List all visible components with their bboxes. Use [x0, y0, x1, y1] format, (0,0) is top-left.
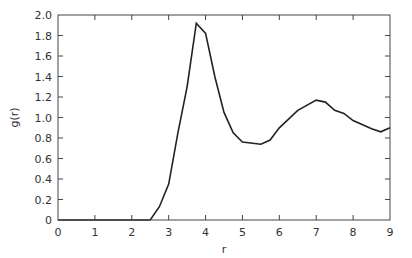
y-tick-label: 0	[45, 214, 52, 227]
y-tick-label: 0.2	[35, 194, 53, 207]
y-tick-label: 1.4	[35, 71, 53, 84]
tick-labels: 012345678900.20.40.60.81.01.21.41.61.82.…	[35, 9, 394, 239]
y-tick-label: 0.8	[35, 132, 53, 145]
x-axis-label: r	[222, 243, 227, 256]
x-tick-label: 8	[350, 226, 357, 239]
x-tick-label: 0	[55, 226, 62, 239]
x-tick-label: 5	[239, 226, 246, 239]
line-chart: 012345678900.20.40.60.81.01.21.41.61.82.…	[0, 0, 412, 258]
y-tick-label: 1.6	[35, 50, 53, 63]
x-tick-label: 4	[202, 226, 209, 239]
axis-ticks	[58, 15, 390, 220]
y-tick-label: 0.6	[35, 153, 53, 166]
y-tick-label: 1.8	[35, 30, 53, 43]
y-tick-label: 1.0	[35, 112, 53, 125]
x-tick-label: 2	[128, 226, 135, 239]
y-tick-label: 0.4	[35, 173, 53, 186]
y-tick-label: 2.0	[35, 9, 53, 22]
g-r-curve	[58, 23, 390, 220]
x-tick-label: 6	[276, 226, 283, 239]
y-tick-label: 1.2	[35, 91, 53, 104]
x-tick-label: 7	[313, 226, 320, 239]
x-tick-label: 3	[165, 226, 172, 239]
x-tick-label: 1	[91, 226, 98, 239]
x-tick-label: 9	[387, 226, 394, 239]
y-axis-label: g(r)	[8, 107, 21, 127]
plot-frame	[58, 15, 390, 220]
